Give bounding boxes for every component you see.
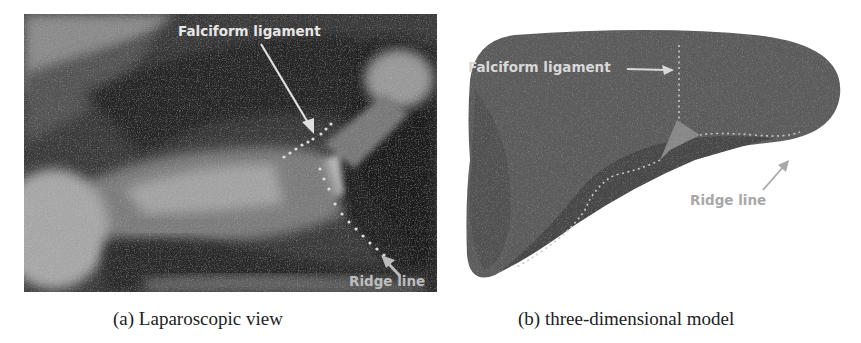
ridge-line-label: Ridge line (690, 192, 766, 208)
ridge-arrow-icon (763, 160, 789, 190)
falciform-ligament-label: Falciform ligament (178, 23, 321, 39)
laparoscopic-photo (24, 14, 437, 292)
laparoscopic-view-image: Falciform ligament Ridge line (24, 14, 437, 292)
ridge-line-label: Ridge line (349, 273, 425, 289)
caption-a: (a) Laparoscopic view (113, 308, 283, 330)
falciform-ligament-label: Falciform ligament (468, 59, 611, 75)
liver-3d-model: Falciform ligament Ridge line (455, 20, 855, 298)
caption-b: (b) three-dimensional model (518, 308, 734, 330)
